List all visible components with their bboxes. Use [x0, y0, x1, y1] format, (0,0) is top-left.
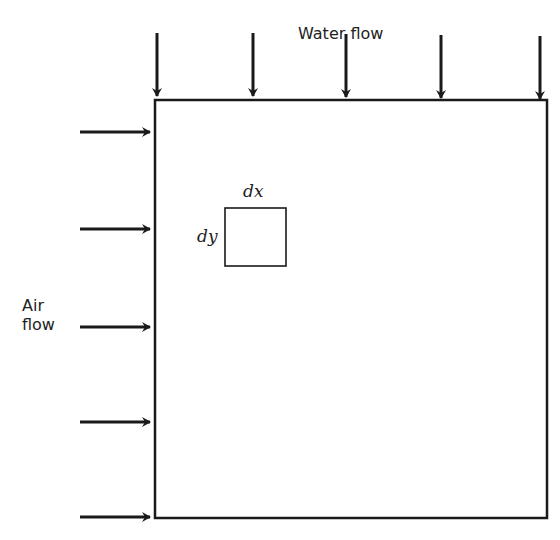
- air-flow-label-line2: flow: [22, 315, 55, 334]
- differential-element-box: [225, 208, 286, 266]
- dy-label: dy: [197, 226, 218, 246]
- domain-box: [155, 100, 547, 518]
- air-flow-label: Air flow: [22, 296, 55, 334]
- dx-label: dx: [243, 181, 263, 201]
- diagram-canvas: [0, 0, 560, 540]
- air-flow-arrows: [80, 132, 150, 517]
- water-flow-label: Water flow: [298, 24, 383, 43]
- air-flow-label-line1: Air: [22, 296, 55, 315]
